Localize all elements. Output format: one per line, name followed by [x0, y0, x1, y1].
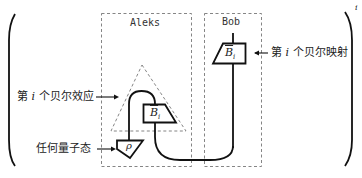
- aleks-region: [102, 14, 192, 167]
- left-parenthesis: [9, 14, 15, 166]
- bell-map-annotation: 第 i 个贝尔映射: [271, 47, 348, 58]
- superscript-index: i: [355, 4, 358, 12]
- bell-map-arrow: [254, 51, 268, 56]
- aleks-box-symbol: B: [150, 106, 158, 119]
- cup-wire: [155, 122, 233, 160]
- bell-effect-index: i: [32, 90, 36, 103]
- right-parenthesis: [345, 12, 352, 166]
- bell-effect-arrow: [96, 95, 119, 100]
- bell-effect-annotation: 第 i 个贝尔效应: [17, 91, 94, 102]
- any-state-arrow: [97, 147, 116, 152]
- bob-box-subscript: i: [233, 53, 235, 61]
- state-symbol: ρ: [126, 141, 132, 151]
- bell-map-prefix: 第: [271, 46, 282, 59]
- aleks-label: Aleks: [130, 18, 160, 28]
- bell-map-index: i: [286, 46, 290, 59]
- bell-effect-prefix: 第: [17, 90, 28, 103]
- bell-effect-suffix: 个贝尔效应: [39, 90, 94, 103]
- bob-box-symbol: B: [225, 46, 233, 59]
- bell-map-suffix: 个贝尔映射: [293, 46, 348, 59]
- aleks-box-subscript: i: [158, 113, 160, 121]
- bob-box-label: Bi: [225, 47, 235, 61]
- aleks-box-label: Bi: [150, 107, 160, 121]
- any-state-annotation: 任何量子态: [36, 143, 91, 154]
- bob-label: Bob: [222, 17, 240, 27]
